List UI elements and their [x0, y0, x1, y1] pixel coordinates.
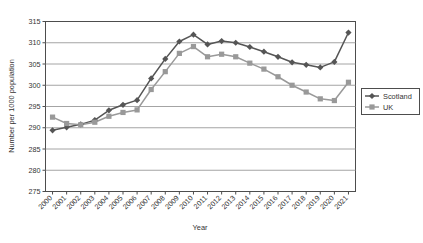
data-point-marker	[106, 114, 111, 119]
data-point-marker	[275, 74, 280, 79]
data-point-marker	[163, 69, 168, 74]
data-point-marker	[233, 54, 238, 59]
y-tick-label: 315	[29, 17, 41, 26]
legend-marker	[369, 104, 374, 109]
data-point-marker	[120, 110, 125, 115]
chart-container: 275280285290295300305310315 200020012002…	[0, 0, 423, 243]
y-axis-tick-labels: 275280285290295300305310315	[29, 17, 41, 196]
data-point-marker	[346, 80, 351, 85]
data-point-marker	[205, 54, 210, 59]
data-point-marker	[64, 121, 69, 126]
y-tick-label: 310	[29, 38, 41, 47]
data-point-marker	[50, 115, 55, 120]
y-tick-label: 295	[29, 102, 41, 111]
data-point-marker	[304, 89, 309, 94]
y-tick-label: 305	[29, 60, 41, 69]
legend: ScotlandUK	[362, 89, 420, 115]
data-point-marker	[332, 98, 337, 103]
y-tick-label: 285	[29, 145, 41, 154]
x-axis-title: Year	[193, 223, 208, 232]
line-chart: 275280285290295300305310315 200020012002…	[0, 0, 423, 243]
data-point-marker	[318, 96, 323, 101]
data-point-marker	[191, 44, 196, 49]
data-point-marker	[289, 83, 294, 88]
data-point-marker	[149, 87, 154, 92]
y-tick-label: 280	[29, 166, 41, 175]
y-tick-label: 300	[29, 81, 41, 90]
data-point-marker	[78, 122, 83, 127]
y-tick-label: 275	[29, 187, 41, 196]
y-tick-label: 290	[29, 123, 41, 132]
data-point-marker	[261, 67, 266, 72]
data-point-marker	[247, 61, 252, 66]
legend-label-scotland: Scotland	[383, 92, 412, 101]
data-point-marker	[134, 107, 139, 112]
data-point-marker	[219, 52, 224, 57]
y-axis-title: Number per 1000 population	[7, 59, 16, 153]
data-point-marker	[177, 51, 182, 56]
legend-label-uk: UK	[383, 103, 393, 112]
data-point-marker	[92, 120, 97, 125]
